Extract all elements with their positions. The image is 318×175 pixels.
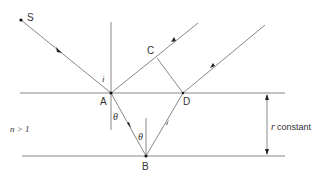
- label-a: A: [100, 96, 107, 107]
- point-d-dot: [182, 92, 184, 94]
- label-theta-a: θ: [113, 111, 118, 122]
- source-point: [19, 18, 22, 21]
- label-thickness-symbol: r: [271, 121, 275, 132]
- emergent-ray-d: [183, 25, 265, 93]
- label-d: D: [183, 96, 190, 107]
- incident-ray: [21, 20, 111, 93]
- point-a-dot: [110, 92, 113, 95]
- label-thickness-note: constant: [277, 122, 312, 132]
- label-theta-b: θ: [138, 131, 143, 142]
- thickness-arrow-top: [265, 94, 269, 100]
- refracted-ray-ab-arrow: [127, 122, 131, 128]
- ray-bd: [146, 93, 183, 156]
- point-b-dot: [145, 155, 148, 158]
- incident-ray-arrow: [56, 47, 62, 53]
- label-medium: n > 1: [10, 124, 30, 134]
- label-c: C: [147, 45, 154, 56]
- label-s: S: [27, 12, 34, 23]
- label-b: B: [142, 161, 149, 172]
- reflected-ray-a: [111, 23, 198, 93]
- thickness-arrow-bottom: [265, 149, 269, 155]
- wavefront-cd: [157, 58, 183, 93]
- label-i: i: [102, 74, 105, 84]
- thin-film-diagram: S C i A θ θ B D n > 1 r constant: [0, 0, 318, 175]
